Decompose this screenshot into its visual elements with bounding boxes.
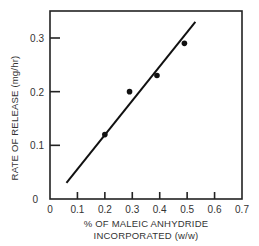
x-tick-label: 0.6 xyxy=(208,204,222,215)
plot-frame xyxy=(50,11,242,199)
chart: 00.10.20.30.40.50.60.7 00.10.20.3 % OF M… xyxy=(0,0,259,246)
data-point xyxy=(154,73,160,79)
y-tick-label: 0.1 xyxy=(30,140,44,151)
data-point xyxy=(127,89,133,95)
x-axis-title-line2: INCORPORATED (w/w) xyxy=(94,230,199,241)
data-point xyxy=(102,132,108,138)
y-tick-label: 0.3 xyxy=(30,33,44,44)
x-tick-label: 0.7 xyxy=(235,204,249,215)
x-tick-label: 0.5 xyxy=(180,204,194,215)
x-tick-label: 0.2 xyxy=(98,204,112,215)
y-tick-label: 0 xyxy=(32,194,38,205)
y-axis-title: RATE OF RELEASE (mg/hr) xyxy=(9,56,20,181)
fit-line xyxy=(66,22,195,183)
data-point xyxy=(182,41,188,47)
x-tick-label: 0 xyxy=(47,204,53,215)
y-axis-ticks: 00.10.20.3 xyxy=(30,33,60,205)
y-tick-label: 0.2 xyxy=(30,87,44,98)
x-tick-label: 0.4 xyxy=(153,204,167,215)
x-axis-title-line1: % OF MALEIC ANHYDRIDE xyxy=(84,218,209,229)
x-axis-ticks: 00.10.20.30.40.50.60.7 xyxy=(47,192,249,215)
x-tick-label: 0.3 xyxy=(125,204,139,215)
x-tick-label: 0.1 xyxy=(70,204,84,215)
